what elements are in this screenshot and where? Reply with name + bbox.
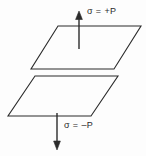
top-plane-parallelogram: [31, 26, 141, 69]
down-arrow-icon: [54, 113, 61, 150]
sigma-negative-label: σ = –P: [64, 121, 93, 130]
bottom-plane-parallelogram: [8, 76, 118, 116]
polarization-diagram: σ = +P σ = –P: [0, 0, 146, 156]
sigma-positive-label: σ = +P: [87, 7, 116, 16]
up-arrow-icon: [76, 11, 83, 49]
diagram-canvas: [0, 0, 146, 156]
plane-group: [8, 26, 141, 116]
